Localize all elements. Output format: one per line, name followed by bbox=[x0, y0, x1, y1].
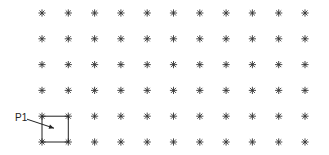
asterisk-marker-icon bbox=[275, 35, 282, 42]
selection-rectangle bbox=[42, 116, 68, 142]
asterisk-marker-icon bbox=[117, 35, 124, 42]
asterisk-marker-icon bbox=[301, 9, 308, 16]
asterisk-marker-icon bbox=[275, 113, 282, 120]
asterisk-marker-icon bbox=[249, 87, 256, 94]
asterisk-marker-icon bbox=[223, 9, 230, 16]
asterisk-marker-icon bbox=[117, 9, 124, 16]
asterisk-marker-icon bbox=[196, 35, 203, 42]
asterisk-marker-icon bbox=[196, 113, 203, 120]
asterisk-marker-icon bbox=[170, 87, 177, 94]
asterisk-marker-icon bbox=[144, 35, 151, 42]
asterisk-marker-icon bbox=[249, 61, 256, 68]
asterisk-marker-icon bbox=[91, 113, 98, 120]
arrowhead-icon bbox=[49, 125, 54, 129]
asterisk-marker-icon bbox=[170, 35, 177, 42]
asterisk-marker-icon bbox=[301, 138, 308, 145]
selection-box-p1 bbox=[27, 116, 68, 142]
asterisk-marker-icon bbox=[117, 113, 124, 120]
asterisk-marker-icon bbox=[65, 35, 72, 42]
asterisk-marker-icon bbox=[196, 138, 203, 145]
asterisk-grid bbox=[38, 9, 308, 145]
asterisk-marker-icon bbox=[91, 35, 98, 42]
asterisk-marker-icon bbox=[170, 9, 177, 16]
asterisk-marker-icon bbox=[170, 61, 177, 68]
asterisk-marker-icon bbox=[38, 35, 45, 42]
asterisk-marker-icon bbox=[249, 138, 256, 145]
asterisk-marker-icon bbox=[117, 61, 124, 68]
point-grid-diagram bbox=[0, 0, 329, 155]
asterisk-marker-icon bbox=[301, 113, 308, 120]
asterisk-marker-icon bbox=[301, 61, 308, 68]
asterisk-marker-icon bbox=[38, 9, 45, 16]
asterisk-marker-icon bbox=[38, 87, 45, 94]
asterisk-marker-icon bbox=[65, 61, 72, 68]
asterisk-marker-icon bbox=[170, 138, 177, 145]
asterisk-marker-icon bbox=[144, 113, 151, 120]
asterisk-marker-icon bbox=[196, 9, 203, 16]
asterisk-marker-icon bbox=[144, 9, 151, 16]
asterisk-marker-icon bbox=[249, 9, 256, 16]
asterisk-marker-icon bbox=[223, 61, 230, 68]
asterisk-marker-icon bbox=[301, 87, 308, 94]
asterisk-marker-icon bbox=[196, 61, 203, 68]
asterisk-marker-icon bbox=[223, 138, 230, 145]
asterisk-marker-icon bbox=[223, 35, 230, 42]
point-label-p1: P1 bbox=[15, 112, 27, 123]
asterisk-marker-icon bbox=[144, 138, 151, 145]
asterisk-marker-icon bbox=[117, 87, 124, 94]
asterisk-marker-icon bbox=[275, 87, 282, 94]
asterisk-marker-icon bbox=[275, 138, 282, 145]
asterisk-marker-icon bbox=[117, 138, 124, 145]
asterisk-marker-icon bbox=[144, 87, 151, 94]
asterisk-marker-icon bbox=[249, 35, 256, 42]
asterisk-marker-icon bbox=[65, 9, 72, 16]
asterisk-marker-icon bbox=[223, 87, 230, 94]
asterisk-marker-icon bbox=[196, 87, 203, 94]
asterisk-marker-icon bbox=[91, 87, 98, 94]
asterisk-marker-icon bbox=[249, 113, 256, 120]
asterisk-marker-icon bbox=[275, 61, 282, 68]
asterisk-marker-icon bbox=[170, 113, 177, 120]
asterisk-marker-icon bbox=[91, 138, 98, 145]
asterisk-marker-icon bbox=[91, 9, 98, 16]
asterisk-marker-icon bbox=[301, 35, 308, 42]
asterisk-marker-icon bbox=[144, 61, 151, 68]
asterisk-marker-icon bbox=[275, 9, 282, 16]
asterisk-marker-icon bbox=[91, 61, 98, 68]
asterisk-marker-icon bbox=[223, 113, 230, 120]
asterisk-marker-icon bbox=[38, 61, 45, 68]
asterisk-marker-icon bbox=[65, 87, 72, 94]
